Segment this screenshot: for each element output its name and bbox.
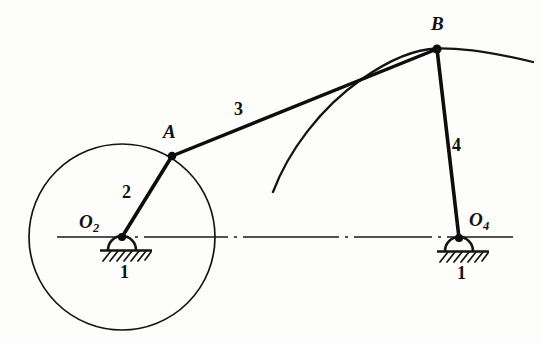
- label-joint-b: B: [431, 14, 444, 33]
- label-link-4: 4: [452, 136, 461, 154]
- joint-b-dot: [432, 44, 441, 53]
- label-pivot-o4-letter: O: [469, 209, 483, 230]
- label-pivot-o2-subscript: 2: [93, 221, 99, 235]
- joint-a-dot: [168, 152, 177, 161]
- label-pivot-o2: O2: [79, 212, 99, 231]
- linkage-drawing-canvas: [0, 0, 541, 344]
- label-joint-a: A: [163, 122, 176, 141]
- label-pivot-o2-letter: O: [79, 211, 93, 232]
- label-pivot-o4-subscript: 4: [483, 219, 489, 233]
- label-link-3: 3: [234, 100, 243, 118]
- pivot-o4-center-dot: [455, 234, 463, 242]
- label-pivot-o4: O4: [469, 210, 489, 229]
- pivot-o2-center-dot: [118, 233, 126, 241]
- label-link-2: 2: [122, 183, 131, 201]
- label-ground-left: 1: [120, 263, 129, 281]
- pivot-o4-hatching: [440, 252, 488, 262]
- coupler-curve: [273, 48, 533, 192]
- pivot-o2-hatching: [103, 251, 151, 261]
- label-ground-right: 1: [457, 264, 466, 282]
- four-bar-linkage-figure: A B O2 O4 2 3 4 1 1: [0, 0, 541, 344]
- ground-pivot-o4: [437, 234, 489, 262]
- link-3-coupler: [172, 49, 437, 156]
